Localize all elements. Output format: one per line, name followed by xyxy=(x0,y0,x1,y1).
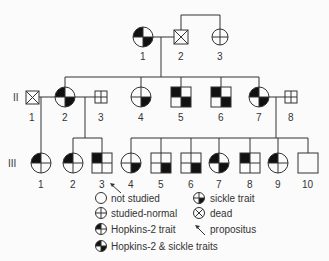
legend-hopkins2-sickle: Hopkins-2 & sickle traits xyxy=(111,241,218,252)
label-III-5: 5 xyxy=(158,179,164,190)
label-III-4: 4 xyxy=(128,179,134,190)
individual-II-4[interactable] xyxy=(131,87,151,107)
legend-dead-icon xyxy=(194,208,205,219)
label-III-6: 6 xyxy=(188,179,194,190)
individual-III-7[interactable] xyxy=(209,153,229,173)
label-III-10: 10 xyxy=(302,179,314,190)
individual-I-1[interactable] xyxy=(133,27,153,47)
legend-not-studied: not studied xyxy=(111,193,160,204)
label-II-8: 8 xyxy=(288,112,294,123)
legend-dead: dead xyxy=(210,208,232,219)
legend: not studied studied-normal Hopkins-2 tra… xyxy=(96,193,257,253)
legend-propositus: propositus xyxy=(210,224,256,235)
label-II-5: 5 xyxy=(178,112,184,123)
generation-III: III xyxy=(8,153,318,193)
individual-II-6[interactable] xyxy=(211,87,231,107)
label-III-9: 9 xyxy=(275,179,281,190)
individual-III-1[interactable] xyxy=(31,153,51,173)
label-II-4: 4 xyxy=(138,112,144,123)
individual-II-8[interactable] xyxy=(285,91,297,103)
label-I-2: 2 xyxy=(178,51,184,62)
legend-hopkins2-trait: Hopkins-2 trait xyxy=(111,224,176,235)
legend-studied-normal: studied-normal xyxy=(111,208,177,219)
individual-II-1[interactable] xyxy=(26,91,39,104)
label-II-3: 3 xyxy=(98,112,104,123)
legend-hopkins2-trait-icon xyxy=(96,224,107,235)
individual-III-10[interactable] xyxy=(298,153,318,173)
label-III-3: 3 xyxy=(99,179,105,190)
individual-III-8[interactable] xyxy=(240,153,260,173)
generation-I: 1 2 3 xyxy=(133,27,228,62)
legend-not-studied-icon xyxy=(96,193,107,204)
individual-III-6[interactable] xyxy=(181,153,201,173)
individual-II-3[interactable] xyxy=(95,91,107,103)
legend-hopkins2-sickle-icon xyxy=(96,241,107,252)
generation-II: II xyxy=(13,87,297,123)
label-II-7: 7 xyxy=(256,112,262,123)
individual-III-5[interactable] xyxy=(151,153,171,173)
legend-propositus-arrow-icon xyxy=(195,225,205,235)
individual-I-3[interactable] xyxy=(212,29,228,45)
label-III-2: 2 xyxy=(70,179,76,190)
pedigree-diagram: 1 2 3 II xyxy=(0,0,329,261)
individual-III-3[interactable] xyxy=(92,153,112,173)
individual-III-2[interactable] xyxy=(63,153,83,173)
label-II-2: 2 xyxy=(62,112,68,123)
generation-label-III: III xyxy=(8,158,16,169)
legend-sickle-trait: sickle trait xyxy=(210,193,255,204)
individual-II-2[interactable] xyxy=(55,87,75,107)
generation-label-II: II xyxy=(13,92,19,103)
label-III-7: 7 xyxy=(216,179,222,190)
label-I-3: 3 xyxy=(217,51,223,62)
legend-studied-normal-icon xyxy=(96,208,107,219)
individual-I-2[interactable] xyxy=(174,30,188,44)
label-I-1: 1 xyxy=(140,51,146,62)
individual-III-9[interactable] xyxy=(268,153,288,173)
individual-II-7[interactable] xyxy=(249,87,269,107)
label-III-1: 1 xyxy=(38,179,44,190)
label-III-8: 8 xyxy=(247,179,253,190)
legend-sickle-trait-icon xyxy=(194,193,205,204)
individual-II-5[interactable] xyxy=(171,87,191,107)
propositus-arrow-icon xyxy=(110,183,121,193)
individual-III-4[interactable] xyxy=(121,153,141,173)
label-II-1: 1 xyxy=(29,112,35,123)
label-II-6: 6 xyxy=(218,112,224,123)
